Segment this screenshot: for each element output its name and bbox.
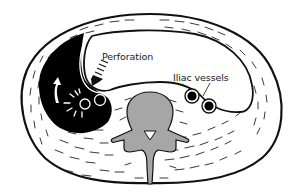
abdominal-cross-section-diagram <box>0 0 298 193</box>
perforation-label: Perforation <box>102 51 153 62</box>
iliac-vessels-label: Iliac vessels <box>173 72 229 83</box>
